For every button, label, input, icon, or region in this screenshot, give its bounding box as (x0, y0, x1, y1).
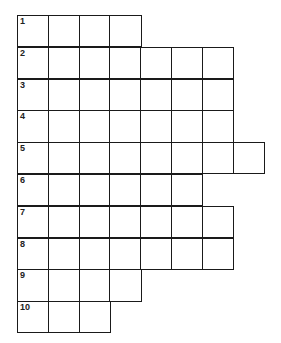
grid-cell[interactable] (109, 142, 141, 174)
grid-cell[interactable] (171, 142, 203, 174)
row-number-label: 5 (20, 144, 25, 153)
grid-cell[interactable]: 2 (17, 47, 49, 79)
grid-row-6: 6 (17, 174, 202, 206)
grid-cell[interactable] (48, 15, 80, 47)
row-number-label: 2 (20, 49, 25, 58)
row-number-label: 8 (20, 240, 25, 249)
grid-cell[interactable] (171, 206, 203, 238)
grid-cell[interactable] (202, 206, 234, 238)
grid-cell[interactable] (109, 79, 141, 111)
grid-cell[interactable] (48, 79, 80, 111)
row-number-label: 9 (20, 271, 25, 280)
grid-cell[interactable] (140, 174, 172, 206)
grid-cell[interactable] (79, 15, 111, 47)
grid-cell[interactable] (140, 238, 172, 270)
grid-cell[interactable] (48, 47, 80, 79)
grid-cell[interactable] (48, 142, 80, 174)
grid-row-8: 8 (17, 238, 233, 270)
grid-cell[interactable] (140, 142, 172, 174)
row-number-label: 1 (20, 17, 25, 26)
grid-cell[interactable] (79, 301, 111, 333)
row-number-label: 10 (20, 303, 30, 312)
grid-row-10: 10 (17, 301, 109, 333)
grid-row-9: 9 (17, 269, 140, 301)
row-number-label: 6 (20, 176, 25, 185)
grid-row-2: 2 (17, 47, 233, 79)
grid-cell[interactable] (202, 110, 234, 142)
grid-cell[interactable] (109, 15, 141, 47)
grid-cell[interactable] (171, 79, 203, 111)
grid-cell[interactable]: 3 (17, 79, 49, 111)
grid-cell[interactable]: 10 (17, 301, 49, 333)
grid-cell[interactable]: 6 (17, 174, 49, 206)
grid-row-3: 3 (17, 79, 233, 111)
grid-cell[interactable] (79, 269, 111, 301)
grid-cell[interactable] (171, 110, 203, 142)
grid-cell[interactable] (140, 110, 172, 142)
row-number-label: 4 (20, 112, 25, 121)
grid-cell[interactable] (140, 79, 172, 111)
grid-cell[interactable] (109, 110, 141, 142)
grid-cell[interactable] (109, 269, 141, 301)
grid-row-5: 5 (17, 142, 263, 174)
grid-cell[interactable]: 9 (17, 269, 49, 301)
grid-cell[interactable] (202, 79, 234, 111)
grid-cell[interactable] (109, 206, 141, 238)
grid-cell[interactable] (79, 174, 111, 206)
grid-cell[interactable] (109, 174, 141, 206)
grid-cell[interactable] (79, 47, 111, 79)
grid-cell[interactable] (202, 142, 234, 174)
grid-cell[interactable]: 4 (17, 110, 49, 142)
grid-cell[interactable]: 5 (17, 142, 49, 174)
grid-cell[interactable] (79, 238, 111, 270)
grid-cell[interactable]: 8 (17, 238, 49, 270)
grid-cell[interactable] (48, 238, 80, 270)
grid-cell[interactable] (48, 301, 80, 333)
grid-cell[interactable] (109, 238, 141, 270)
grid-cell[interactable] (109, 47, 141, 79)
grid-row-7: 7 (17, 206, 233, 238)
grid-cell[interactable]: 7 (17, 206, 49, 238)
grid-cell[interactable]: 1 (17, 15, 49, 47)
grid-cell[interactable] (48, 174, 80, 206)
grid-cell[interactable] (140, 206, 172, 238)
grid-cell[interactable] (48, 206, 80, 238)
grid-cell[interactable] (140, 47, 172, 79)
grid-cell[interactable] (202, 47, 234, 79)
grid-cell[interactable] (48, 110, 80, 142)
grid-cell[interactable] (171, 174, 203, 206)
grid-row-1: 1 (17, 15, 140, 47)
grid-cell[interactable] (202, 238, 234, 270)
grid-cell[interactable] (79, 142, 111, 174)
grid-cell[interactable] (79, 206, 111, 238)
grid-cell[interactable] (171, 238, 203, 270)
grid-cell[interactable] (79, 79, 111, 111)
grid-row-4: 4 (17, 110, 233, 142)
row-number-label: 3 (20, 81, 25, 90)
grid-cell[interactable] (233, 142, 265, 174)
grid-cell[interactable] (171, 47, 203, 79)
row-number-label: 7 (20, 208, 25, 217)
grid-cell[interactable] (48, 269, 80, 301)
grid-cell[interactable] (79, 110, 111, 142)
